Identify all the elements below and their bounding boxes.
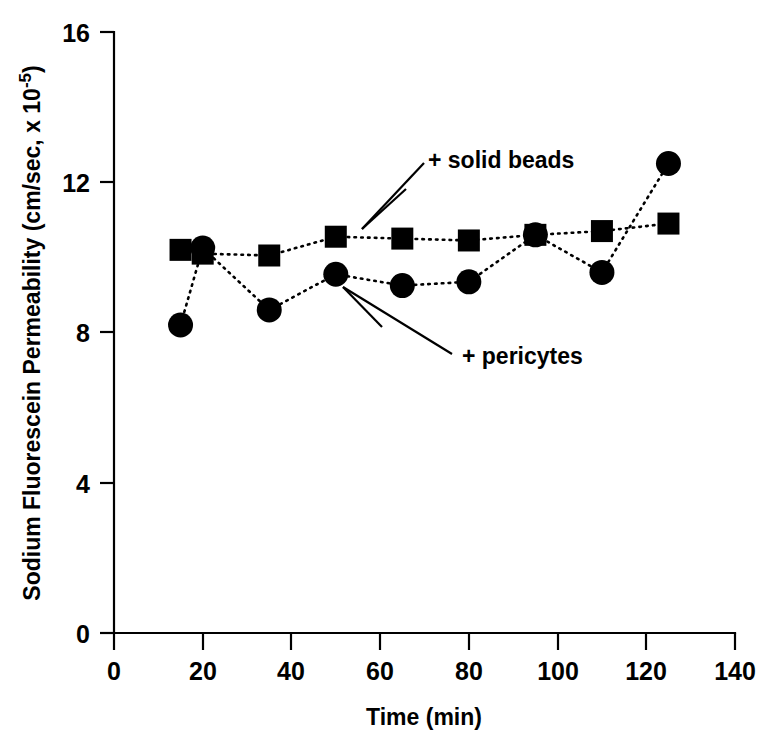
data-point-square <box>657 213 679 235</box>
data-point-circle <box>656 151 681 176</box>
y-tick-label-0: 0 <box>76 620 90 648</box>
data-point-square <box>258 245 280 267</box>
data-point-circle <box>257 297 282 322</box>
y-tick-label-4: 4 <box>76 470 90 498</box>
data-point-square <box>524 224 546 246</box>
x-tick-label-120: 120 <box>625 657 667 685</box>
y-axis-title-exponent: -5 <box>16 73 35 88</box>
data-point-square <box>192 243 214 265</box>
permeability-line-chart: 16 12 8 4 0 0 20 40 60 80 100 120 140 Ti… <box>0 0 773 744</box>
x-tick-label-60: 60 <box>366 657 394 685</box>
annotation-label: + solid beads <box>428 147 574 173</box>
data-point-square <box>325 226 347 248</box>
data-point-square <box>170 239 192 261</box>
x-tick-label-80: 80 <box>455 657 483 685</box>
x-tick-label-0: 0 <box>107 657 121 685</box>
x-tick-label-100: 100 <box>537 657 579 685</box>
annotation-label: + pericytes <box>462 343 583 369</box>
data-point-square <box>391 228 413 250</box>
x-tick-label-20: 20 <box>189 657 217 685</box>
data-point-circle <box>456 269 481 294</box>
y-tick-label-16: 16 <box>62 19 90 47</box>
svg-text:Sodium Fluorescein Permeabilit: Sodium Fluorescein Permeability (cm/sec,… <box>16 65 45 600</box>
chart-figure: 16 12 8 4 0 0 20 40 60 80 100 120 140 Ti… <box>0 0 773 744</box>
y-tick-label-8: 8 <box>76 319 90 347</box>
data-point-square <box>591 220 613 242</box>
data-point-circle <box>390 273 415 298</box>
x-tick-label-140: 140 <box>714 657 756 685</box>
y-tick-label-12: 12 <box>62 169 90 197</box>
x-axis-title: Time (min) <box>366 704 482 730</box>
x-tick-label-40: 40 <box>277 657 305 685</box>
data-point-square <box>458 229 480 251</box>
y-axis-title: Sodium Fluorescein Permeability (cm/sec,… <box>16 65 45 600</box>
data-point-circle <box>323 262 348 287</box>
data-point-circle <box>589 260 614 285</box>
y-axis-title-close: ) <box>19 65 45 73</box>
y-axis-title-main: Sodium Fluorescein Permeability (cm/sec,… <box>19 88 45 601</box>
data-point-circle <box>168 312 193 337</box>
